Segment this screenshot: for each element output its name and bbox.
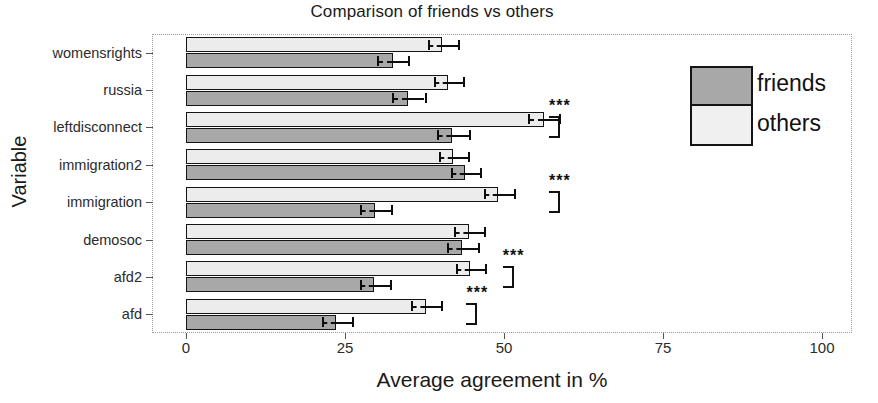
y-tick-label-immigration: immigration bbox=[0, 194, 142, 210]
errorbar-high-others-leftdisconnect bbox=[544, 119, 559, 121]
errorbar-high-friends-womensrights bbox=[393, 61, 408, 63]
bar-friends-immigration2 bbox=[186, 165, 465, 180]
errorbar-cap-low-friends-immigration bbox=[360, 205, 362, 215]
legend-label-others: others bbox=[757, 110, 821, 137]
legend-box bbox=[690, 66, 753, 146]
errorbar-low-friends-immigration bbox=[360, 210, 375, 212]
errorbar-cap-high-friends-afd2 bbox=[390, 280, 392, 290]
errorbar-high-others-russia bbox=[448, 82, 463, 84]
bar-others-leftdisconnect bbox=[186, 112, 544, 127]
bar-others-afd bbox=[186, 299, 426, 314]
errorbar-low-others-afd2 bbox=[456, 269, 471, 271]
y-tick-mark-demosoc bbox=[146, 240, 153, 241]
errorbar-low-friends-leftdisconnect bbox=[437, 135, 452, 137]
significance-stars-immigration: *** bbox=[549, 172, 571, 190]
errorbar-low-others-afd bbox=[411, 306, 426, 308]
errorbar-cap-low-friends-afd2 bbox=[360, 280, 362, 290]
y-tick-label-demosoc: demosoc bbox=[0, 232, 142, 248]
y-tick-mark-russia bbox=[146, 90, 153, 91]
y-tick-mark-immigration bbox=[146, 202, 153, 203]
legend-label-friends: friends bbox=[757, 70, 826, 97]
errorbar-cap-high-friends-russia bbox=[425, 93, 427, 103]
significance-bracket-immigration bbox=[549, 191, 560, 213]
errorbar-high-friends-afd2 bbox=[374, 285, 389, 287]
bar-friends-leftdisconnect bbox=[186, 128, 452, 143]
errorbar-cap-low-friends-afd bbox=[322, 317, 324, 327]
bar-others-womensrights bbox=[186, 37, 442, 52]
bar-others-immigration2 bbox=[186, 149, 453, 164]
y-tick-label-afd2: afd2 bbox=[0, 269, 142, 285]
significance-stars-afd2: *** bbox=[503, 247, 525, 265]
significance-stars-leftdisconnect: *** bbox=[549, 97, 571, 115]
y-tick-mark-leftdisconnect bbox=[146, 127, 153, 128]
chart-title: Comparison of friends vs others bbox=[152, 2, 712, 22]
errorbar-low-others-immigration2 bbox=[439, 157, 453, 159]
others-swatch bbox=[692, 106, 751, 144]
errorbar-cap-high-friends-demosoc bbox=[478, 243, 480, 253]
errorbar-high-friends-russia bbox=[408, 98, 425, 100]
errorbar-cap-low-friends-demosoc bbox=[447, 243, 449, 253]
errorbar-cap-low-others-afd bbox=[411, 301, 413, 311]
errorbar-high-friends-immigration bbox=[375, 210, 392, 212]
errorbar-cap-high-friends-leftdisconnect bbox=[469, 130, 471, 140]
errorbar-cap-low-others-immigration bbox=[484, 189, 486, 199]
chart-figure: Comparison of friends vs others Variable… bbox=[0, 0, 878, 403]
errorbar-cap-high-friends-immigration bbox=[391, 205, 393, 215]
errorbar-cap-low-friends-immigration2 bbox=[451, 168, 453, 178]
errorbar-cap-low-others-afd2 bbox=[456, 264, 458, 274]
y-tick-label-leftdisconnect: leftdisconnect bbox=[0, 119, 142, 135]
errorbar-low-others-demosoc bbox=[454, 232, 469, 234]
x-tick-mark-25 bbox=[345, 333, 346, 339]
errorbar-high-friends-immigration2 bbox=[465, 173, 480, 175]
errorbar-cap-high-others-immigration2 bbox=[468, 152, 470, 162]
x-tick-label-0: 0 bbox=[182, 339, 190, 356]
errorbar-cap-low-friends-russia bbox=[392, 93, 394, 103]
y-tick-label-afd: afd bbox=[0, 306, 142, 322]
bar-friends-afd2 bbox=[186, 277, 374, 292]
errorbar-cap-high-others-afd bbox=[441, 301, 443, 311]
x-axis-label: Average agreement in % bbox=[152, 368, 832, 392]
x-tick-label-50: 50 bbox=[496, 339, 513, 356]
errorbar-cap-high-others-russia bbox=[463, 77, 465, 87]
errorbar-low-friends-afd2 bbox=[360, 285, 375, 287]
errorbar-high-friends-demosoc bbox=[462, 248, 478, 250]
errorbar-cap-high-friends-immigration2 bbox=[480, 168, 482, 178]
errorbar-cap-high-friends-womensrights bbox=[408, 56, 410, 66]
errorbar-high-others-afd2 bbox=[470, 269, 485, 271]
errorbar-cap-low-others-womensrights bbox=[428, 40, 430, 50]
y-tick-label-immigration2: immigration2 bbox=[0, 157, 142, 173]
x-tick-mark-50 bbox=[504, 333, 505, 339]
bar-friends-immigration bbox=[186, 203, 375, 218]
errorbar-cap-high-others-immigration bbox=[514, 189, 516, 199]
errorbar-low-others-leftdisconnect bbox=[528, 119, 544, 121]
x-tick-label-25: 25 bbox=[337, 339, 354, 356]
friends-swatch bbox=[692, 68, 751, 106]
x-tick-label-75: 75 bbox=[655, 339, 672, 356]
y-tick-mark-afd bbox=[146, 314, 153, 315]
bar-others-afd2 bbox=[186, 261, 470, 276]
errorbar-low-others-immigration bbox=[484, 194, 498, 196]
errorbar-low-friends-afd bbox=[322, 322, 336, 324]
errorbar-cap-low-friends-leftdisconnect bbox=[437, 130, 439, 140]
y-tick-mark-womensrights bbox=[146, 53, 153, 54]
errorbar-low-others-womensrights bbox=[428, 45, 443, 47]
errorbar-low-friends-immigration2 bbox=[451, 173, 466, 175]
significance-bracket-afd bbox=[466, 303, 477, 325]
significance-stars-afd: *** bbox=[466, 284, 488, 302]
errorbar-cap-low-others-immigration2 bbox=[439, 152, 441, 162]
y-tick-mark-afd2 bbox=[146, 277, 153, 278]
errorbar-high-others-immigration bbox=[498, 194, 513, 196]
bar-others-immigration bbox=[186, 187, 498, 202]
x-tick-mark-100 bbox=[822, 333, 823, 339]
errorbar-high-others-womensrights bbox=[442, 45, 457, 47]
y-tick-label-womensrights: womensrights bbox=[0, 45, 142, 61]
errorbar-high-others-demosoc bbox=[469, 232, 484, 234]
errorbar-cap-high-others-demosoc bbox=[484, 227, 486, 237]
x-tick-mark-75 bbox=[663, 333, 664, 339]
errorbar-cap-high-others-womensrights bbox=[458, 40, 460, 50]
errorbar-high-friends-leftdisconnect bbox=[452, 135, 469, 137]
x-tick-label-100: 100 bbox=[809, 339, 834, 356]
bar-friends-russia bbox=[186, 91, 408, 106]
errorbar-cap-high-others-afd2 bbox=[485, 264, 487, 274]
errorbar-high-others-immigration2 bbox=[453, 157, 468, 159]
